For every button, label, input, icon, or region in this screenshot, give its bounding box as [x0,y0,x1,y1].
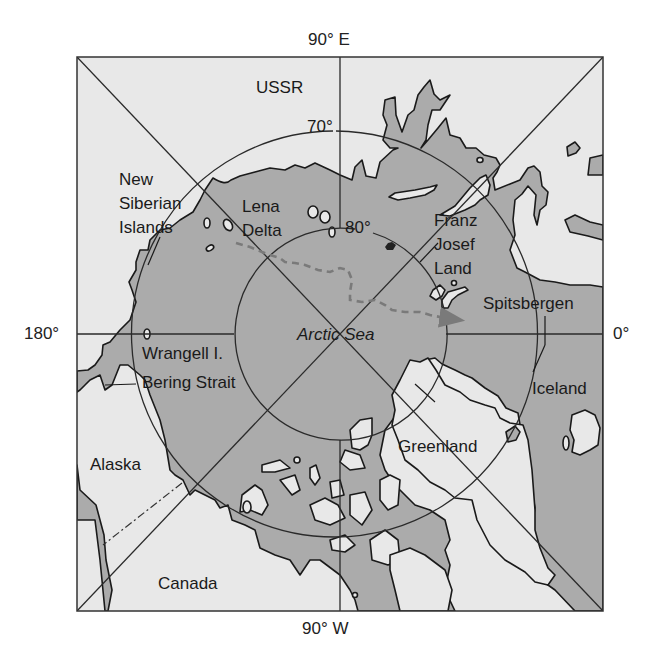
label-canada: Canada [158,574,218,593]
island [452,281,457,286]
label-90w: 90° W [302,619,348,638]
island [563,436,569,450]
label-90e: 90° E [308,30,350,49]
island [320,211,330,223]
label-0: 0° [613,324,629,343]
island [294,457,300,463]
label-greenland: Greenland [398,437,477,456]
canada-island-11 [380,475,400,510]
label-arctic-sea: Arctic Sea [296,325,374,344]
island [353,593,358,598]
label-ussr: USSR [256,78,303,97]
label-franz-1: Franz [434,211,477,230]
label-lat-70: 70° [307,117,333,136]
label-wrangell: Wrangell I. [142,344,223,363]
label-franz-3: Land [434,259,472,278]
label-lena-2: Delta [242,221,282,240]
label-new-siberian-1: New [119,170,154,189]
island [308,206,318,218]
baltic-piece [588,155,603,175]
label-180: 180° [24,324,59,343]
label-lat-80: 80° [345,218,371,237]
label-bering: Bering Strait [142,373,236,392]
label-alaska: Alaska [90,455,142,474]
island [477,158,483,163]
label-new-siberian-3: Islands [119,218,173,237]
island [204,218,210,228]
label-lena-1: Lena [242,197,280,216]
label-spitsbergen: Spitsbergen [483,294,574,313]
island [243,501,251,513]
label-new-siberian-2: Siberian [119,194,181,213]
label-iceland: Iceland [532,379,587,398]
arctic-map: 90° E 90° W 180° 0° 70° 80° USSR New Sib… [0,0,660,660]
label-franz-2: Josef [434,235,475,254]
